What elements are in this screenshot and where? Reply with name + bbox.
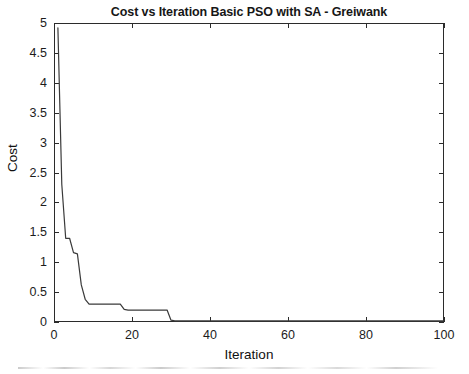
y-tick-mark [54,322,59,323]
scan-artifact [18,367,438,369]
x-tick-label: 100 [434,329,455,342]
x-tick-label: 40 [203,329,217,342]
x-tick-label: 0 [51,329,58,342]
x-axis-label: Iteration [54,347,444,362]
y-tick-label: 3 [40,136,47,149]
plot-area: 00.511.522.533.544.55020406080100 [54,23,444,322]
y-tick-mark [439,322,444,323]
chart-title: Cost vs Iteration Basic PSO with SA - Gr… [54,5,444,19]
x-tick-mark [444,23,445,28]
y-tick-label: 1.5 [30,226,47,239]
y-tick-label: 5 [40,17,47,30]
y-tick-label: 4.5 [30,47,47,60]
y-tick-label: 0.5 [30,286,47,299]
x-tick-label: 20 [125,329,139,342]
y-tick-label: 2 [40,196,47,209]
y-axis-label: Cost [6,144,20,172]
y-tick-label: 2.5 [30,166,47,179]
y-tick-label: 4 [40,77,47,90]
figure-canvas: Cost vs Iteration Basic PSO with SA - Gr… [0,0,469,374]
x-tick-label: 80 [359,329,373,342]
y-tick-label: 0 [40,316,47,329]
x-tick-label: 60 [281,329,295,342]
data-plot [54,23,444,322]
cost-series-line [58,28,444,321]
y-tick-label: 1 [40,256,47,269]
y-tick-label: 3.5 [30,106,47,119]
